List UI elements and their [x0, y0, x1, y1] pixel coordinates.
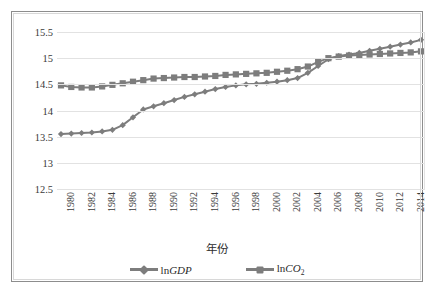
data-point — [305, 63, 311, 69]
legend-line-lnco2 — [246, 268, 274, 271]
x-tick-label: 2006 — [332, 192, 343, 212]
data-point — [377, 51, 383, 57]
data-point — [397, 41, 403, 47]
x-tick-label: 2000 — [271, 192, 282, 212]
data-point — [284, 77, 290, 83]
data-point — [212, 86, 218, 92]
chart-frame: 12.51313.51414.51515.5 19801982198419861… — [11, 11, 423, 282]
gridline — [57, 137, 425, 138]
gridline — [57, 189, 425, 190]
x-tick-label: 1980 — [65, 192, 76, 212]
x-tick-label: 1998 — [250, 192, 261, 212]
y-tick-label: 14.5 — [35, 79, 53, 90]
y-tick-label: 13.5 — [35, 131, 53, 142]
data-point — [222, 72, 228, 78]
data-point — [315, 59, 321, 65]
data-point — [161, 75, 167, 81]
y-axis-labels: 12.51313.51414.51515.5 — [12, 32, 53, 189]
data-point — [140, 77, 146, 83]
gridline — [57, 111, 425, 112]
y-tick-label: 12.5 — [35, 184, 53, 195]
x-tick-label: 1984 — [106, 192, 117, 212]
data-point — [243, 71, 249, 77]
data-point — [233, 82, 239, 88]
legend-item-lngdp[interactable]: lnGDP — [130, 264, 192, 276]
data-point — [58, 82, 64, 88]
x-tick-label: 1992 — [188, 192, 199, 212]
legend-label-lngdp: lnGDP — [161, 264, 192, 276]
data-point — [366, 51, 372, 57]
gridline — [57, 58, 425, 59]
data-point — [233, 71, 239, 77]
x-tick-label: 1988 — [147, 192, 158, 212]
data-point — [202, 89, 208, 95]
x-tick-label: 1982 — [86, 192, 97, 212]
data-point — [408, 39, 414, 45]
data-point — [274, 69, 280, 75]
data-point — [120, 80, 126, 86]
data-point — [171, 97, 177, 103]
data-point — [99, 128, 105, 134]
data-point — [253, 70, 259, 76]
diamond-marker-icon — [139, 265, 149, 275]
data-point — [418, 37, 424, 43]
data-point — [212, 73, 218, 79]
data-point — [181, 94, 187, 100]
data-point — [202, 73, 208, 79]
x-tick-label: 2002 — [291, 192, 302, 212]
x-tick-label: 2012 — [394, 192, 405, 212]
y-tick-label: 15 — [43, 53, 54, 64]
data-point — [89, 129, 95, 135]
data-point — [408, 49, 414, 55]
data-point — [78, 130, 84, 136]
x-tick-label: 1990 — [168, 192, 179, 212]
data-point — [397, 50, 403, 56]
x-tick-label: 2010 — [374, 192, 385, 212]
x-tick-label: 2008 — [353, 192, 364, 212]
gridline — [57, 84, 425, 85]
legend-line-lngdp — [130, 268, 158, 271]
legend-item-lnco2[interactable]: lnCO2 — [246, 262, 305, 277]
y-tick-label: 14 — [43, 105, 54, 116]
data-point — [387, 44, 393, 50]
x-tick-label: 1996 — [230, 192, 241, 212]
data-point — [109, 127, 115, 133]
data-point — [192, 91, 198, 97]
data-point — [150, 103, 156, 109]
x-tick-label: 1994 — [209, 192, 220, 212]
gridline — [57, 32, 425, 33]
data-point — [161, 100, 167, 106]
chart-legend: lnGDP lnCO2 — [12, 262, 422, 277]
legend-label-lnco2: lnCO2 — [277, 262, 305, 277]
data-point — [418, 48, 424, 54]
data-point — [192, 74, 198, 80]
plot-area — [57, 32, 425, 189]
x-axis-labels: 1980198219841986198819901992199419961998… — [57, 192, 425, 240]
y-tick-label: 13 — [43, 157, 54, 168]
data-point — [284, 68, 290, 74]
square-marker-icon — [256, 266, 263, 273]
y-tick-label: 15.5 — [35, 27, 53, 38]
data-point — [150, 75, 156, 81]
data-point — [171, 74, 177, 80]
data-point — [181, 74, 187, 80]
x-tick-label: 2014 — [415, 192, 426, 212]
data-point — [264, 70, 270, 76]
data-point — [387, 50, 393, 56]
gridline — [57, 163, 425, 164]
x-axis-title: 年份 — [12, 240, 422, 256]
x-tick-label: 2004 — [312, 192, 323, 212]
x-tick-label: 1986 — [127, 192, 138, 212]
data-point — [294, 66, 300, 72]
